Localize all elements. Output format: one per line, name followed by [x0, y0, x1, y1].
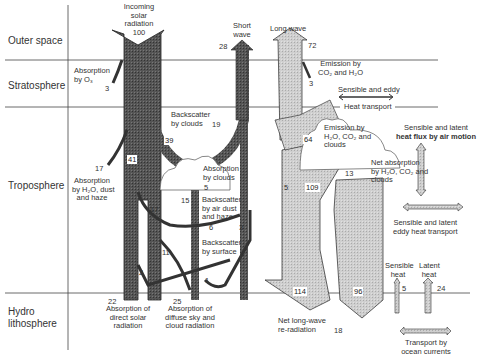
ocean-transport-label: Transport by ocean currents	[401, 339, 451, 356]
surface-backscatter-label: Backscatter by surface	[202, 239, 241, 256]
text-line: by surface	[202, 248, 241, 257]
direct-absorption-label: Absorption of direct solar radiation	[104, 305, 152, 331]
text-line: and haze	[202, 213, 241, 222]
sensible-heat-arrow	[394, 278, 400, 313]
net-absorption-label: Net absorption by H₂O, CO₂ and clouds	[371, 159, 428, 185]
sensible-eddy-top-label: Sensible and eddy	[338, 86, 400, 95]
text-line: by clouds	[171, 120, 210, 129]
net-longwave-label: Net long-wave re-radiation	[278, 317, 326, 334]
diffuse-absorption-label: Absorption of diffuse sky and cloud radi…	[165, 305, 215, 331]
flow-value-41: 41	[127, 155, 137, 164]
cloud-emission-label: Emission by H₂O, CO₂ and clouds	[324, 124, 371, 150]
eddy-transport-label: Sensible and latent eddy heat transport	[393, 219, 458, 236]
net-longwave-value: 18	[334, 326, 342, 335]
flow-value-15: 15	[181, 196, 189, 205]
text-line: re-radiation	[278, 326, 326, 335]
latent-heat-value: 24	[437, 284, 445, 293]
flow-value-11: 11	[162, 248, 170, 257]
text-line: radiation	[104, 322, 152, 331]
ozone-absorption-value: 3	[105, 84, 109, 93]
sensible-eddy-arrow	[339, 94, 393, 100]
flow-value-109: 109	[305, 183, 320, 192]
flow-value-5: 5	[284, 183, 288, 192]
short-wave-arrow	[231, 40, 253, 120]
layer-outer-space: Outer space	[8, 35, 62, 47]
text-line: by clouds	[203, 174, 239, 183]
cloud-absorption-value: 5	[204, 183, 208, 192]
co2-emission-label: Emission by CO₂ and H₂O	[318, 60, 363, 77]
latent-heat-arrow	[423, 278, 433, 313]
text-line: ocean currents	[401, 348, 451, 356]
incoming-solar-label: Incoming solar radiation 100	[118, 3, 160, 37]
text-line: cloud radiation	[165, 322, 215, 331]
flow-value-39: 39	[164, 136, 174, 145]
ozone-absorption-arrow	[113, 60, 122, 83]
short-wave-value: 28	[219, 42, 227, 51]
layer-line: Hydro	[8, 306, 57, 318]
text-line: eddy heat transport	[393, 228, 458, 237]
back-radiation-band	[334, 178, 383, 318]
layer-hydro-lithosphere: Hydro lithosphere	[8, 306, 57, 330]
layer-troposphere: Troposphere	[8, 180, 64, 192]
latent-heat-label: Latent heat	[419, 262, 439, 279]
surface-backscatter-value: 1	[205, 276, 209, 285]
emission-value-64: 64	[303, 135, 313, 144]
flow-value-114: 114	[293, 287, 307, 296]
net-absorption-value: 13	[345, 169, 353, 178]
eddy-horizontal-arrow	[403, 203, 463, 211]
air-backscatter-value: 6	[209, 223, 213, 232]
text-line: heat	[385, 271, 411, 280]
air-backscatter-value-3: 3	[239, 223, 243, 232]
short-wave-label: Short wave	[231, 22, 253, 39]
ocean-transport-arrow	[400, 327, 451, 335]
cloud-absorption-label: Absorption by clouds	[203, 165, 239, 182]
sensible-heat-label: Sensible heat	[385, 262, 411, 279]
text-line: clouds	[371, 176, 428, 185]
text-line: wave	[231, 31, 253, 40]
text-line: heat flux by air motion	[396, 133, 476, 142]
long-wave-value: 72	[308, 41, 316, 50]
flow-value-17: 17	[150, 205, 158, 214]
air-backscatter-label: Backscatter by air dust and haze	[202, 196, 241, 222]
layer-stratosphere: Stratosphere	[8, 80, 65, 92]
dust-absorption-value: 17	[95, 164, 103, 173]
flow-value-96: 96	[353, 287, 363, 296]
text-line: 100	[118, 29, 160, 38]
text-line: and haze	[72, 194, 112, 203]
ozone-absorption-label: Absorption by O₃	[74, 67, 110, 84]
stratosphere-emission-arrow	[303, 62, 310, 78]
heat-transport-label: Heat transport	[342, 103, 394, 112]
long-wave-label: Long wave	[270, 25, 306, 34]
text-line: heat	[419, 271, 439, 280]
co2-emission-value: 3	[309, 79, 313, 88]
backscatter-clouds-value: 19	[212, 120, 220, 129]
flow-value-2: 2	[139, 268, 143, 277]
dust-absorption-label: Absorption by H₂O, dust and haze	[72, 177, 112, 203]
backscatter-clouds-label: Backscatter by clouds	[171, 111, 210, 128]
text-line: CO₂ and H₂O	[318, 69, 363, 78]
sensible-heat-value: 5	[402, 284, 406, 293]
text-line: by O₃	[74, 76, 110, 85]
air-motion-label: Sensible and latent heat flux by air mot…	[396, 124, 476, 141]
layer-line: lithosphere	[8, 318, 57, 330]
text-line: clouds	[324, 141, 371, 150]
